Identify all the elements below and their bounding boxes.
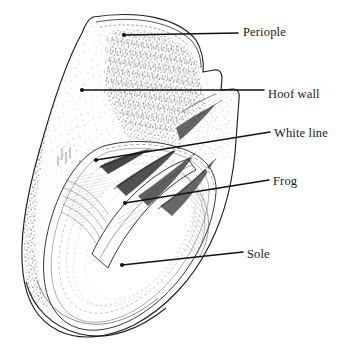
leader-dot-sole bbox=[120, 263, 124, 267]
leader-dot-periople bbox=[122, 33, 126, 37]
label-frog: Frog bbox=[273, 175, 297, 188]
leader-dot-white-line bbox=[94, 158, 98, 162]
label-periople: Periople bbox=[243, 26, 286, 39]
label-hoof-wall: Hoof wall bbox=[268, 88, 320, 101]
label-white-line: White line bbox=[274, 127, 328, 140]
label-sole: Sole bbox=[247, 248, 270, 261]
leader-dot-frog bbox=[123, 201, 127, 205]
hoof-anatomy-figure: Periople Hoof wall White line Frog Sole bbox=[0, 0, 349, 353]
leader-dot-hoof-wall bbox=[80, 88, 84, 92]
